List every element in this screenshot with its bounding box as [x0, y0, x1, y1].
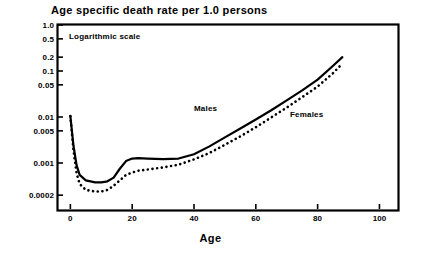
y-tick-label: 0.5 [2, 34, 54, 43]
x-tick-label: 80 [313, 214, 322, 223]
x-axis-title: Age [0, 232, 421, 244]
y-tick-label: 0.01 [2, 113, 54, 122]
y-tick-label: 0.1 [2, 67, 54, 76]
chart-title: Age specific death rate per 1.0 persons [51, 4, 268, 16]
y-tick-label: 1.0 [2, 21, 54, 30]
y-tick-label: 0.05 [2, 80, 54, 89]
y-tick-label: 0.2 [2, 53, 54, 62]
y-axis-tick-labels: 1.00.50.20.10.050.010.0050.0010.0002 [0, 0, 54, 258]
chart-figure: Age specific death rate per 1.0 persons … [0, 0, 421, 258]
series-label-females: Females [290, 110, 323, 119]
plot-frame [58, 25, 399, 211]
x-tick-label: 60 [251, 214, 260, 223]
log-scale-annotation: Logarithmic scale [69, 32, 140, 41]
y-tick-label: 0.0002 [2, 191, 54, 200]
y-tick-label: 0.005 [2, 126, 54, 135]
x-tick-label: 0 [68, 214, 73, 223]
series-label-males: Males [194, 104, 217, 113]
x-tick-label: 40 [189, 214, 198, 223]
plot-area [0, 0, 421, 258]
x-tick-label: 100 [373, 214, 387, 223]
x-tick-label: 20 [128, 214, 137, 223]
y-tick-label: 0.001 [2, 159, 54, 168]
